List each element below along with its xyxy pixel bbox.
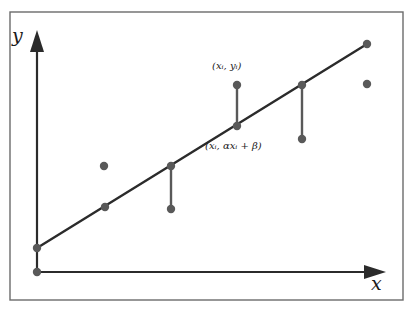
observed-point-label: (xᵢ, yᵢ): [212, 60, 241, 71]
y-axis-label: y: [12, 24, 23, 46]
x-axis-label: x: [371, 272, 382, 294]
observed-point: [233, 81, 241, 89]
observed-point: [33, 268, 41, 276]
fitted-point: [167, 162, 175, 170]
observed-point: [167, 205, 175, 213]
observed-point: [298, 135, 306, 143]
observed-point: [363, 80, 371, 88]
fitted-point: [298, 81, 306, 89]
fitted-point: [363, 40, 371, 48]
fitted-point: [233, 122, 241, 130]
fitted-point: [101, 203, 109, 211]
fitted-point-label: (xᵢ, αxᵢ + β): [205, 140, 262, 151]
observed-point: [100, 162, 108, 170]
regression-diagram-canvas: [0, 0, 413, 314]
figure-border: [10, 12, 403, 300]
regression-figure: y x (xᵢ, yᵢ) (xᵢ, αxᵢ + β): [0, 0, 413, 314]
fitted-point: [33, 244, 41, 252]
